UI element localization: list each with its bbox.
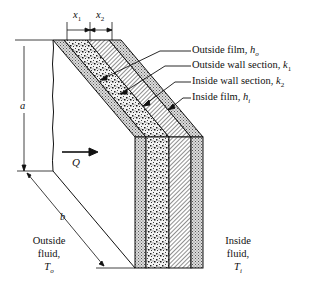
layer-label-outside-film: Outside film, ho (192, 45, 259, 58)
layer-label-inside-film: Inside film, hi (192, 92, 250, 105)
a-label: a (20, 101, 25, 112)
dimension-x1-x2 (67, 22, 112, 40)
wall-front-face (135, 137, 203, 268)
inside-fluid-label: Inside fluid, Ti (214, 234, 262, 278)
x1-label: x1 (73, 10, 81, 23)
x2-label: x2 (96, 10, 104, 23)
wall-top-face (53, 40, 203, 137)
heat-flow-arrow (62, 148, 98, 156)
outside-fluid-label: Outside fluid, To (25, 234, 73, 278)
left-break-line (53, 40, 54, 171)
b-label: b (60, 212, 65, 223)
layer-label-inside-wall: Inside wall section, k2 (192, 76, 284, 89)
q-label: Q (72, 157, 80, 168)
layer-label-outside-wall: Outside wall section, k1 (192, 60, 291, 73)
